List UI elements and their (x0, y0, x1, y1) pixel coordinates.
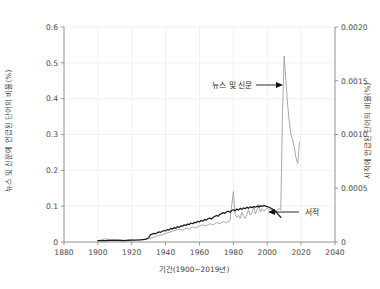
x-tick-label: 2040 (325, 248, 344, 257)
y-tick-label-left: 0.5 (46, 59, 58, 68)
y-tick-label-left: 0.4 (46, 94, 58, 103)
x-tick-labels: 188019001920194019601980200020202040 (54, 248, 344, 257)
line-chart: 188019001920194019601980200020202040 00.… (0, 0, 380, 289)
x-tick-label: 1940 (156, 248, 175, 257)
y-axis-title-right: 서적에 언급된 단어의 비율(%) (363, 82, 372, 179)
x-tick-label: 1880 (54, 248, 73, 257)
x-tick-label: 2020 (291, 248, 310, 257)
x-tick-label: 1900 (88, 248, 107, 257)
y-tick-label-left: 0.3 (46, 130, 58, 139)
y-tick-label-right: 0 (341, 238, 346, 247)
y-tick-label-right: 0.0005 (341, 184, 368, 193)
x-tick-label: 1920 (122, 248, 141, 257)
x-tick-label: 1960 (190, 248, 209, 257)
y-tick-label-left: 0.6 (46, 23, 58, 32)
y-tick-label-left: 0.2 (46, 166, 58, 175)
y-axis-title-left: 뉴스 및 신문에 언급된 단어의 비율(%) (4, 70, 13, 193)
y-tick-label-right: 0.0020 (341, 23, 368, 32)
annotation-label-news: 뉴스 및 신문 (212, 80, 252, 90)
x-tick-label: 2000 (258, 248, 277, 257)
chart-container: 188019001920194019601980200020202040 00.… (0, 0, 380, 289)
x-tick-label: 1980 (224, 248, 243, 257)
y-tick-label-left: 0 (53, 238, 58, 247)
x-axis-title: 기간(1900~2019년) (159, 265, 230, 274)
y-tick-label-left: 0.1 (46, 202, 58, 211)
annotation-label-books: 서적 (305, 207, 319, 217)
